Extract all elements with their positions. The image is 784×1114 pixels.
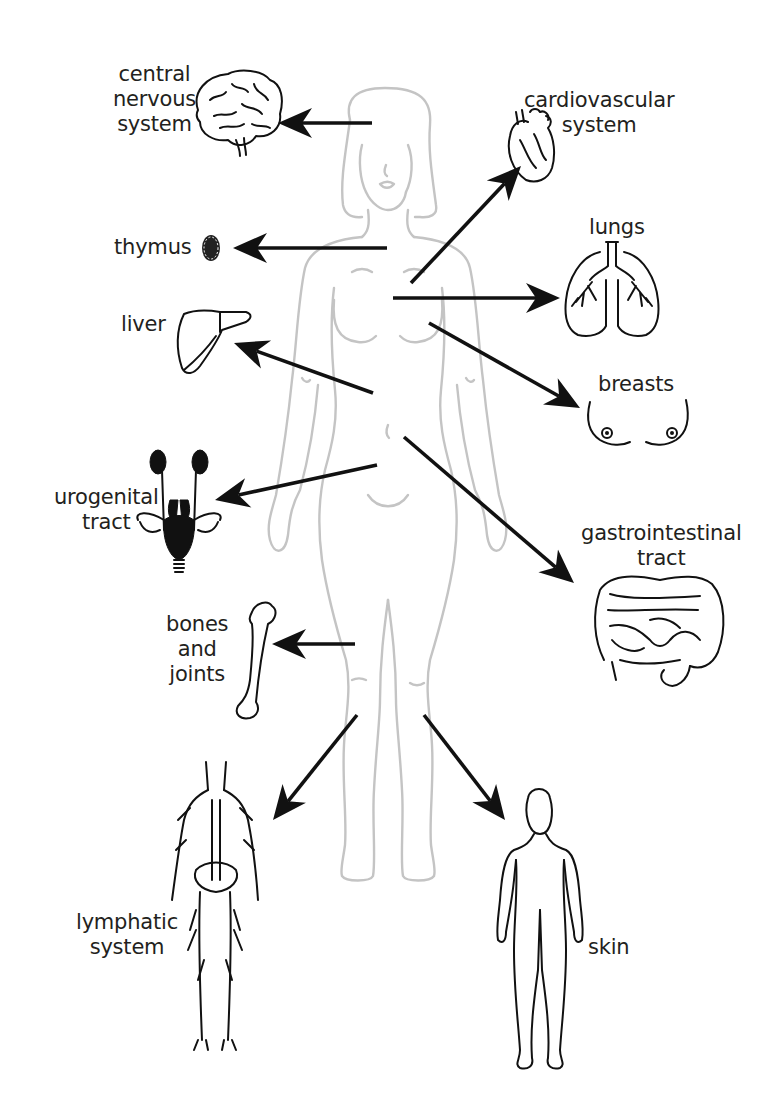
label-urogenital-tract: urogenital tract (54, 485, 159, 535)
label-breasts: breasts (598, 372, 674, 397)
organ-diagram: central nervous system cardiovascular sy… (0, 0, 784, 1114)
label-cardiovascular-system: cardiovascular system (524, 88, 674, 138)
label-liver: liver (121, 312, 166, 337)
skin-silhouette-icon (497, 789, 583, 1069)
label-skin: skin (588, 935, 629, 960)
intestines-icon (595, 577, 723, 686)
breasts-icon (588, 400, 688, 445)
label-gastrointestinal-tract: gastrointestinal tract (581, 521, 742, 571)
lungs-icon (566, 242, 659, 336)
thymus-icon (202, 235, 220, 261)
lymphatic-icon (172, 762, 258, 1050)
bone-icon (237, 603, 276, 719)
brain-icon (197, 71, 282, 156)
label-central-nervous-system: central nervous system (113, 62, 196, 137)
label-bones-and-joints: bones and joints (166, 612, 228, 687)
liver-icon (178, 311, 251, 373)
label-thymus: thymus (114, 235, 191, 260)
label-lymphatic-system: lymphatic system (76, 910, 178, 960)
label-lungs: lungs (589, 215, 645, 240)
